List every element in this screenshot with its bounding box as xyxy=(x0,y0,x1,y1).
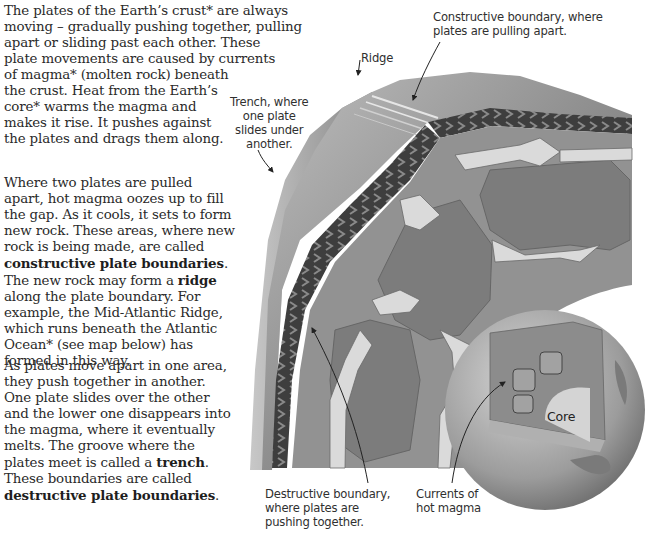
text-segment: along the plate boundary. For example, t… xyxy=(4,289,223,368)
ridge-label: Ridge xyxy=(361,51,393,65)
constructive-boundaries-paragraph: Where two plates are pulled apart, hot m… xyxy=(4,175,264,369)
constructive-boundary-label: Constructive boundary, where plates are … xyxy=(433,10,603,38)
key-term: destructive plate boundaries xyxy=(4,487,215,503)
destructive-boundaries-paragraph: As plates move apart in one area, they p… xyxy=(4,358,264,504)
text-segment: Where two plates are pulled apart, hot m… xyxy=(4,175,235,254)
trench-label: Trench, where one plate slides under ano… xyxy=(230,95,308,151)
key-term: constructive plate boundaries xyxy=(4,255,224,271)
magma-currents-label: Currents of hot magma xyxy=(416,487,481,515)
text-segment: . xyxy=(215,488,219,503)
core-label: Core xyxy=(547,410,575,424)
key-term: ridge xyxy=(178,272,217,288)
earth-globe-inset xyxy=(445,310,645,510)
destructive-boundary-label: Destructive boundary, where plates are p… xyxy=(265,487,390,529)
key-term: trench xyxy=(156,454,205,470)
